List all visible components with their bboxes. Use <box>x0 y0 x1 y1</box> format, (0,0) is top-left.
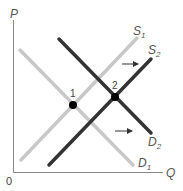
origin-label: 0 <box>6 175 12 187</box>
equilibrium-point-1 <box>69 101 77 109</box>
equilibrium-point-2 <box>111 93 119 101</box>
curve-d2 <box>59 39 151 133</box>
d2-label: D2 <box>148 135 162 151</box>
supply-demand-diagram: 1 2 P Q 0 S1 S2 D1 D2 <box>0 0 183 191</box>
y-axis-label: P <box>10 7 18 21</box>
s1-label: S1 <box>133 24 145 40</box>
point-1-label: 1 <box>70 88 76 99</box>
curve-d1 <box>20 50 133 165</box>
s2-label: S2 <box>148 43 161 59</box>
d1-label: D1 <box>138 156 151 172</box>
x-axis-label: Q <box>166 166 175 180</box>
point-2-label: 2 <box>112 80 118 91</box>
